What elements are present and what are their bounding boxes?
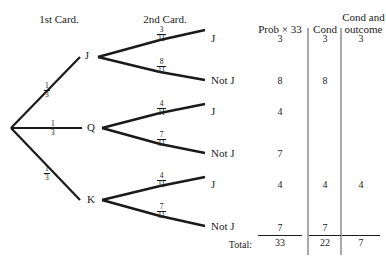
prob-total-group: 7 33 bbox=[258, 222, 302, 249]
prob-root-q-denom: 3 bbox=[50, 128, 56, 137]
branch-q-j bbox=[102, 113, 160, 128]
prob-cell-1: 8 bbox=[258, 76, 302, 86]
prob-k-notj-numer: 7 bbox=[157, 203, 166, 211]
leaf-k-j: J bbox=[211, 179, 215, 190]
prob-cell-3: 7 bbox=[258, 149, 302, 159]
prob-j-j-denom: 11 bbox=[157, 34, 166, 43]
branch-j-notj-cont bbox=[160, 72, 205, 80]
node-level1-q: Q bbox=[84, 122, 98, 133]
branch-q-notj-cont bbox=[160, 144, 205, 153]
node-level1-j: J bbox=[80, 50, 94, 61]
outcome-total: 7 bbox=[342, 235, 380, 250]
cond-total: 22 bbox=[309, 235, 341, 250]
outcome-cell-5 bbox=[342, 222, 380, 235]
prob-j-j-numer: 3 bbox=[157, 26, 166, 34]
outcome-cell-4: 4 bbox=[342, 180, 380, 190]
branch-k-j-cont bbox=[160, 177, 205, 186]
cond-cell-4: 4 bbox=[309, 180, 341, 190]
prob-cell-4: 4 bbox=[258, 180, 302, 190]
prob-j-notj-denom: 11 bbox=[157, 66, 166, 75]
leaf-k-notj: Not J bbox=[211, 221, 235, 232]
prob-j-j: 3 11 bbox=[157, 26, 166, 43]
prob-k-j: 4 11 bbox=[157, 172, 166, 189]
prob-k-j-numer: 4 bbox=[157, 172, 166, 180]
prob-j-notj: 8 11 bbox=[157, 58, 166, 75]
leaf-j-notj: Not J bbox=[211, 75, 235, 86]
header-second-card: 2nd Card. bbox=[130, 14, 200, 25]
probability-tree-figure: 1st Card. 2nd Card. Prob × 33 Cond Cond … bbox=[0, 0, 386, 263]
prob-root-k: 1 3 bbox=[44, 165, 50, 182]
cond-total-group: 7 22 bbox=[309, 222, 341, 249]
cond-cell-0: 3 bbox=[309, 34, 341, 44]
leaf-q-j: J bbox=[211, 106, 215, 117]
branch-k-j bbox=[102, 186, 160, 200]
prob-q-j-numer: 4 bbox=[157, 100, 166, 108]
header-cond-outcome: Cond and outcome bbox=[341, 11, 386, 36]
prob-root-q-numer: 1 bbox=[50, 120, 56, 128]
leaf-j-j: J bbox=[211, 33, 215, 44]
leaf-q-notj: Not J bbox=[211, 148, 235, 159]
branch-k-notj-cont bbox=[160, 216, 205, 226]
prob-j-notj-numer: 8 bbox=[157, 58, 166, 66]
prob-q-j: 4 11 bbox=[157, 100, 166, 117]
total-label: Total: bbox=[196, 240, 252, 250]
cond-cell-1: 8 bbox=[309, 76, 341, 86]
outcome-total-group: 7 bbox=[342, 222, 380, 249]
prob-k-notj-denom: 11 bbox=[157, 211, 166, 220]
prob-q-notj-numer: 7 bbox=[157, 131, 166, 139]
prob-k-j-denom: 11 bbox=[157, 180, 166, 189]
node-level1-k: K bbox=[84, 194, 98, 205]
branch-q-notj bbox=[102, 128, 160, 144]
prob-q-j-denom: 11 bbox=[157, 108, 166, 117]
prob-cell-0: 3 bbox=[258, 34, 302, 44]
branch-j-notj bbox=[98, 57, 160, 72]
prob-root-j-denom: 3 bbox=[44, 90, 50, 99]
header-cond-outcome-line1: Cond and bbox=[342, 11, 384, 23]
header-first-card: 1st Card. bbox=[24, 14, 94, 25]
branch-j-j-cont bbox=[160, 30, 205, 40]
prob-k-notj: 7 11 bbox=[157, 203, 166, 220]
prob-root-j-numer: 1 bbox=[44, 82, 50, 90]
prob-root-k-numer: 1 bbox=[44, 165, 50, 173]
prob-root-q: 1 3 bbox=[50, 120, 56, 137]
prob-root-k-denom: 3 bbox=[44, 173, 50, 182]
branch-j-j bbox=[98, 40, 160, 57]
branch-q-j-cont bbox=[160, 104, 205, 113]
prob-q-notj-denom: 11 bbox=[157, 139, 166, 148]
prob-cell-2: 4 bbox=[258, 107, 302, 117]
outcome-cell-0: 3 bbox=[342, 34, 380, 44]
prob-total: 33 bbox=[258, 235, 302, 250]
prob-q-notj: 7 11 bbox=[157, 131, 166, 148]
prob-cell-5: 7 bbox=[258, 222, 302, 235]
cond-cell-5: 7 bbox=[309, 222, 341, 235]
branch-k-notj bbox=[102, 200, 160, 216]
prob-root-j: 1 3 bbox=[44, 82, 50, 99]
